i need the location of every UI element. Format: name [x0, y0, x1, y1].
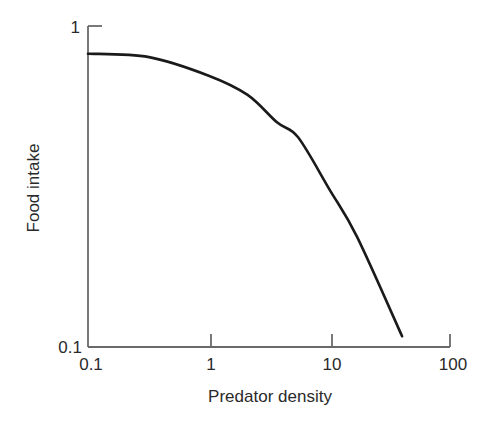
y-axis-title: Food intake [24, 144, 43, 233]
food-intake-curve [88, 54, 402, 337]
x-tick-label-10: 10 [323, 355, 342, 374]
chart-canvas: 1 0.1 0.1 1 10 100 Predator density Food… [0, 0, 496, 430]
x-tick-label-100: 100 [439, 355, 467, 374]
x-axis-title: Predator density [208, 387, 332, 406]
x-tick-label-0.1: 0.1 [79, 355, 103, 374]
y-tick-label-1: 1 [71, 18, 80, 37]
plot-area: 1 0.1 0.1 1 10 100 Predator density Food… [24, 18, 467, 406]
x-tick-label-1: 1 [206, 355, 215, 374]
